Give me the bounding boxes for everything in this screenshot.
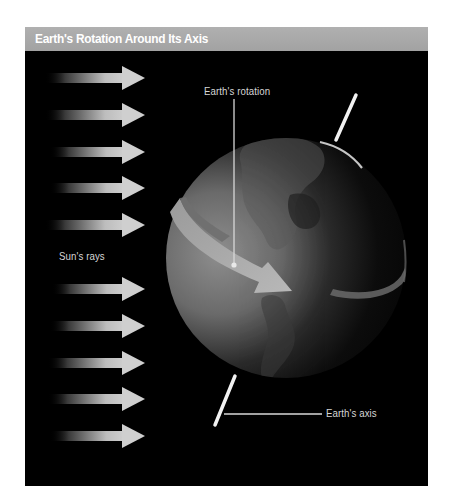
rotation-leader-dot <box>231 262 236 267</box>
ray-arrow-icon <box>52 277 145 301</box>
earth-axis-label: Earth's axis <box>326 407 377 419</box>
axis-line-bottom <box>215 376 235 425</box>
ray-arrow-icon <box>45 66 145 90</box>
ray-arrow-icon <box>45 213 145 237</box>
ray-arrow-icon <box>48 351 145 375</box>
ray-arrow-icon <box>50 424 145 448</box>
earth-globe-icon <box>166 136 406 378</box>
ray-arrow-icon <box>45 103 145 127</box>
ray-arrow-icon <box>50 314 145 338</box>
earth-rotation-label: Earth's rotation <box>204 85 270 97</box>
axis-line-top <box>336 95 356 140</box>
suns-rays-label: Sun's rays <box>59 250 105 262</box>
ray-arrow-icon <box>50 140 145 164</box>
ray-arrow-icon <box>50 176 145 200</box>
ray-arrow-icon <box>48 387 145 411</box>
